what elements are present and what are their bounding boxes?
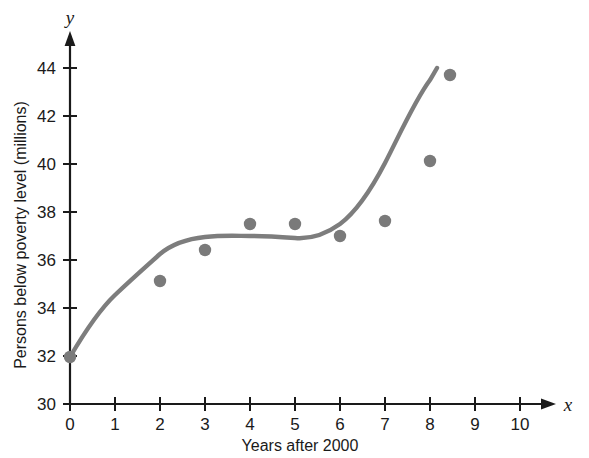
y-axis-title: Persons below poverty level (millions) xyxy=(12,101,29,369)
x-tick-label: 7 xyxy=(380,415,389,434)
y-tick-label: 30 xyxy=(37,395,56,414)
x-tick-label: 10 xyxy=(511,415,530,434)
x-tick-label: 9 xyxy=(470,415,479,434)
x-tick-label: 4 xyxy=(245,415,254,434)
data-point xyxy=(199,244,211,256)
x-tick-label: 5 xyxy=(290,415,299,434)
y-tick-label: 36 xyxy=(37,251,56,270)
y-tick-label: 44 xyxy=(37,59,56,78)
y-tick-label: 42 xyxy=(37,107,56,126)
x-tick-label: 8 xyxy=(425,415,434,434)
x-tick-label: 0 xyxy=(65,415,74,434)
data-point xyxy=(154,275,166,287)
data-point xyxy=(244,218,256,230)
poverty-level-scatter-chart: 30 32 34 36 38 40 42 44 0 1 2 3 4 5 6 7 … xyxy=(0,0,589,458)
y-tick-label: 40 xyxy=(37,155,56,174)
data-point xyxy=(424,155,436,167)
x-axis-letter: x xyxy=(563,394,573,415)
y-axis-letter: y xyxy=(64,7,75,28)
data-point xyxy=(444,69,456,81)
y-tick-label: 32 xyxy=(37,347,56,366)
data-point xyxy=(64,351,76,363)
x-tick-label: 1 xyxy=(110,415,119,434)
y-tick-label: 38 xyxy=(37,203,56,222)
data-point xyxy=(379,215,391,227)
x-tick-label: 6 xyxy=(335,415,344,434)
x-tick-label: 2 xyxy=(155,415,164,434)
x-tick-label: 3 xyxy=(200,415,209,434)
y-tick-label: 34 xyxy=(37,299,56,318)
data-point xyxy=(334,230,346,242)
data-point xyxy=(289,218,301,230)
x-axis-title: Years after 2000 xyxy=(242,437,359,454)
